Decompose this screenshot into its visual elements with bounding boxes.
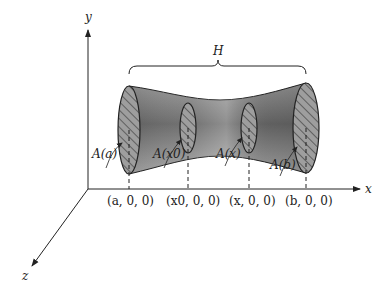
solid-cross-section-diagram: y x z H A(a) A(x0) A(x) A(b) (a, 0, 0) (… <box>0 0 389 293</box>
cross-section-a <box>106 86 140 189</box>
x-axis-label: x <box>365 182 372 196</box>
z-axis <box>32 189 88 266</box>
point-label-x0: (x0, 0, 0) <box>166 194 220 208</box>
brace-label-h: H <box>212 44 224 58</box>
area-label-x: A(x) <box>215 147 241 161</box>
point-label-b: (b, 0, 0) <box>285 194 333 208</box>
y-axis-label: y <box>84 10 92 24</box>
area-label-x0: A(x0) <box>152 147 186 161</box>
length-brace: H <box>129 44 306 74</box>
z-axis-label: z <box>21 269 29 283</box>
point-label-a: (a, 0, 0) <box>107 194 154 208</box>
area-label-b: A(b) <box>269 158 296 172</box>
area-label-a: A(a) <box>91 147 118 161</box>
point-label-x: (x, 0, 0) <box>229 194 276 208</box>
